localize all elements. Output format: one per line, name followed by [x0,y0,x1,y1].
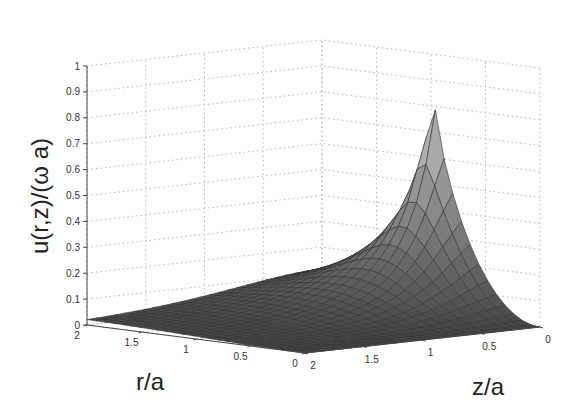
r-tick-label: 0 [292,358,298,369]
z-tick-label: 0.6 [66,164,80,175]
z-tick-label: 0 [74,320,80,331]
z-over-a-tick-label: 2 [310,360,316,371]
z-tick-label: 0.8 [66,112,80,123]
surface-mesh [87,110,540,353]
z-over-a-tick-label: 1 [428,347,434,358]
z-tick-label: 0.2 [66,268,80,279]
r-tick-label: 2 [74,330,80,341]
r-tick-label: 1 [183,344,189,355]
z-tick-label: 0.5 [66,190,80,201]
z-tick-label: 1 [74,61,80,72]
z-over-a-tick-label: 1.5 [365,354,379,365]
z-tick-label: 0.4 [66,216,80,227]
z-tick-label: 0.1 [66,294,80,305]
z-tick-label: 0.9 [66,86,80,97]
r-tick-label: 1.5 [125,337,139,348]
r-tick-label: 0.5 [234,351,248,362]
z-tick-label: 0.7 [66,138,80,149]
z-over-a-axis-label: z/a [472,373,505,400]
z-over-a-tick-label: 0.5 [482,341,496,352]
z-tick-label: 0.3 [66,242,80,253]
z-axis-label: u(r,z)/(ω a) [26,138,53,254]
z-over-a-tick-label: 0 [545,334,551,345]
surface-plot: 00.10.20.30.40.50.60.70.80.9100.511.5200… [0,0,584,419]
r-axis-label: r/a [136,368,165,395]
